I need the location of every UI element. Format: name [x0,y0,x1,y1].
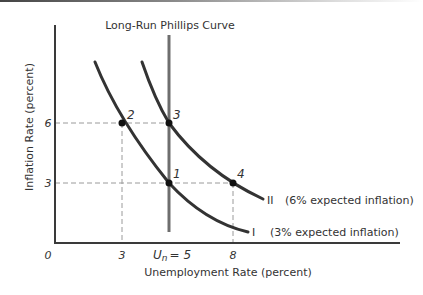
x-tick-0: 0 [45,249,52,262]
point-2-label: 2 [127,108,135,122]
point-3-label: 3 [173,108,181,122]
curve-I-desc: (3% expected inflation) [270,226,399,239]
x-tick-3: 3 [119,249,126,262]
phillips-curve-chart: 2 3 1 4 Long-Run Phillips Curve 6 3 0 3 … [0,0,423,295]
y-tick-6: 6 [45,117,52,130]
x-tick-un: Un= 5 [153,248,191,263]
y-axis-label: Inflation Rate (percent) [23,63,36,191]
point-4 [230,180,237,187]
lrpc-title: Long-Run Phillips Curve [105,19,235,32]
curve-I [95,62,248,232]
x-tick-8: 8 [230,249,237,262]
point-2 [119,120,126,127]
point-3 [166,120,173,127]
curve-II [142,62,263,199]
y-tick-3: 3 [45,177,52,190]
curve-II-id: II [267,194,274,207]
curve-II-desc: (6% expected inflation) [285,194,414,207]
point-1 [166,180,173,187]
point-1-label: 1 [173,167,181,181]
point-4-label: 4 [237,167,245,181]
x-axis-label: Unemployment Rate (percent) [144,266,311,279]
guide-lines [55,123,233,243]
curve-I-id: I [252,226,255,239]
